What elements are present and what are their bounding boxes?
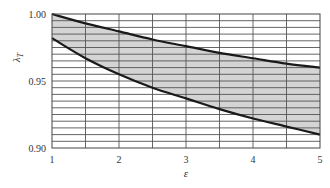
y-axis-label-subscript: T bbox=[16, 52, 25, 57]
x-tick-label: 1 bbox=[50, 154, 55, 165]
x-tick-label: 5 bbox=[318, 154, 323, 165]
x-tick-labels: 12345 bbox=[50, 154, 323, 165]
x-axis-label: ε bbox=[184, 167, 189, 179]
y-tick-labels: 0.900.951.00 bbox=[29, 9, 47, 154]
y-tick-label: 0.95 bbox=[29, 76, 47, 87]
chart: 0.900.951.00 12345 ε λT bbox=[0, 0, 330, 188]
x-tick-label: 3 bbox=[184, 154, 189, 165]
y-tick-label: 0.90 bbox=[29, 143, 47, 154]
x-tick-label: 4 bbox=[251, 154, 256, 165]
y-tick-label: 1.00 bbox=[29, 9, 47, 20]
y-axis-label: λT bbox=[10, 52, 25, 63]
grid bbox=[52, 14, 320, 148]
x-tick-label: 2 bbox=[117, 154, 122, 165]
